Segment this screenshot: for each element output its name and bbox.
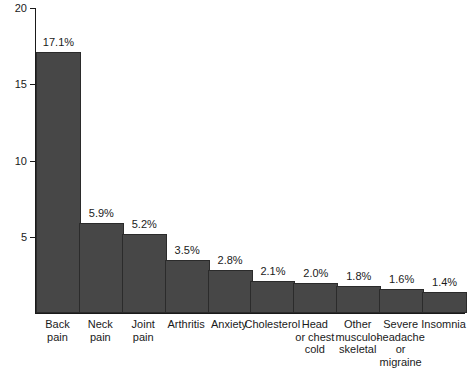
bar[interactable]: [379, 289, 424, 313]
bar[interactable]: [122, 234, 167, 313]
bar-group: 3.5%: [165, 0, 210, 313]
bar[interactable]: [36, 52, 81, 313]
bar-value-label: 5.9%: [89, 208, 114, 219]
bar-group: 2.0%: [293, 0, 338, 313]
y-axis-tick-label: 5: [0, 232, 27, 243]
bar-group: 17.1%: [36, 0, 81, 313]
bar-group: 2.1%: [250, 0, 295, 313]
bar-value-label: 2.1%: [260, 266, 285, 277]
bar-value-label: 5.2%: [132, 219, 157, 230]
bar-group: 1.6%: [379, 0, 424, 313]
bar[interactable]: [336, 286, 381, 313]
y-axis-tick-label: 20: [0, 3, 27, 14]
bar-value-label: 17.1%: [43, 37, 74, 48]
bar-group: 2.8%: [208, 0, 253, 313]
bar-value-label: 1.4%: [432, 277, 457, 288]
bar-group: 1.8%: [336, 0, 381, 313]
bar[interactable]: [165, 260, 210, 313]
x-axis-category-label: Insomnia: [416, 318, 468, 331]
bar-group: 5.9%: [79, 0, 124, 313]
y-axis-tick-label: 10: [0, 156, 27, 167]
plot-area: 17.1%5.9%5.2%3.5%2.8%2.1%2.0%1.8%1.6%1.4…: [36, 0, 465, 313]
bar[interactable]: [422, 292, 467, 313]
bar[interactable]: [208, 270, 253, 313]
bar-value-label: 2.0%: [303, 268, 328, 279]
y-axis-tick-label: 15: [0, 79, 27, 90]
x-axis-line: [35, 313, 465, 314]
bar[interactable]: [293, 283, 338, 314]
bar-value-label: 1.8%: [346, 271, 371, 282]
bar[interactable]: [250, 281, 295, 313]
bar[interactable]: [79, 223, 124, 313]
bar-group: 1.4%: [422, 0, 467, 313]
bar-group: 5.2%: [122, 0, 167, 313]
bar-value-label: 2.8%: [218, 255, 243, 266]
bar-value-label: 1.6%: [389, 274, 414, 285]
bar-value-label: 3.5%: [175, 245, 200, 256]
